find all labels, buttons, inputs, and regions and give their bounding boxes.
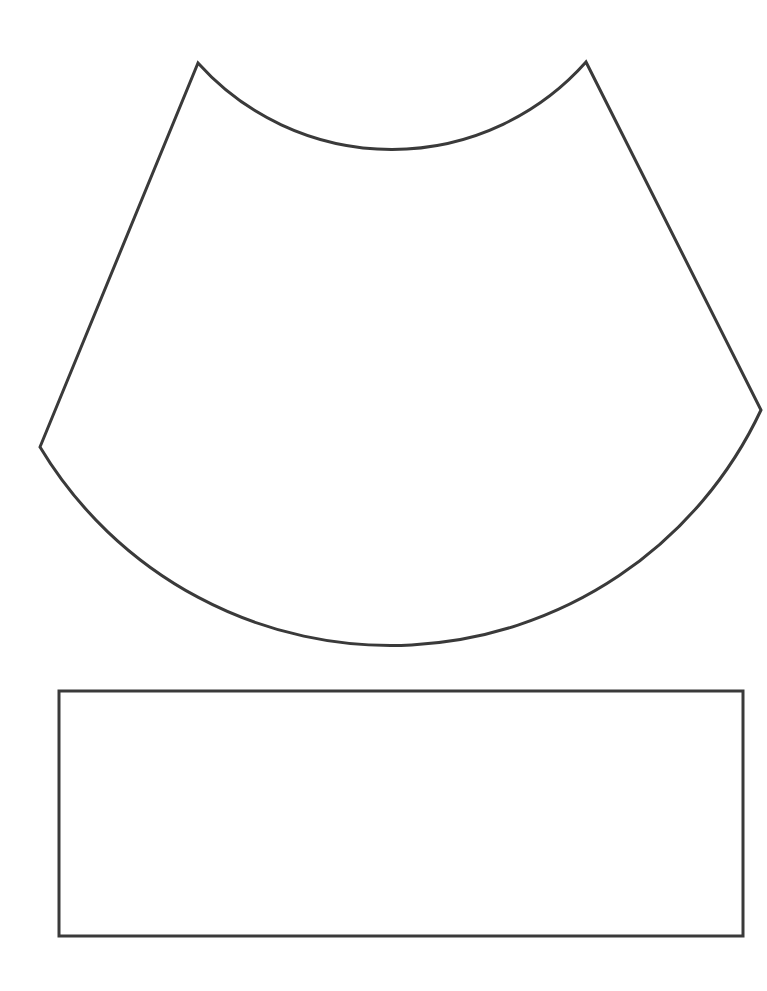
template-canvas xyxy=(0,0,767,991)
cone-segment-shape xyxy=(40,62,761,645)
rectangle-shape xyxy=(59,691,743,936)
